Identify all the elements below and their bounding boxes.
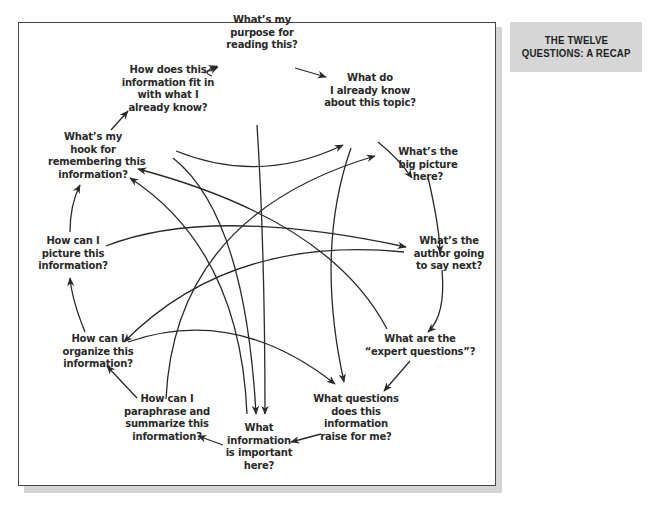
node-line: with what I — [118, 89, 218, 102]
node-line: What are the — [360, 333, 480, 346]
node-line: information — [310, 418, 402, 431]
node-line: is important — [216, 447, 302, 460]
node-line: picture this — [38, 248, 108, 261]
node-paraphrase: How can I paraphrase and summarize this … — [122, 393, 212, 443]
node-line: information? — [122, 431, 212, 444]
node-line: information fit in — [118, 77, 218, 90]
node-line: big picture — [390, 159, 466, 172]
arrow-paraphrase-to-bigpicture — [166, 156, 375, 399]
node-line: reading this? — [222, 39, 302, 52]
node-line: How can I — [58, 333, 138, 346]
arrow-organize-to-picture — [70, 278, 85, 332]
arrow-purpose-to-important — [257, 125, 265, 414]
node-line: information? — [48, 169, 138, 182]
node-line: here? — [390, 171, 466, 184]
node-line: to say next? — [410, 260, 488, 273]
node-purpose: What’s my purpose for reading this? — [222, 14, 302, 52]
node-big-picture: What’s the big picture here? — [390, 146, 466, 184]
node-line: What’s the — [390, 146, 466, 159]
node-line: What — [216, 422, 302, 435]
node-line: purpose for — [222, 27, 302, 40]
node-already-know: What do I already know about this topic? — [315, 72, 425, 110]
node-line: organize this — [58, 346, 138, 359]
node-line: information — [216, 435, 302, 448]
node-questions-raise: What questions does this information rai… — [310, 393, 402, 443]
arrow-already-to-questions — [331, 148, 351, 382]
node-important: What information is important here? — [216, 422, 302, 472]
arrow-organize-to-questions — [128, 330, 335, 384]
node-organize: How can I organize this information? — [58, 333, 138, 371]
node-expert-questions: What are the “expert questions”? — [360, 333, 480, 358]
node-line: remembering this — [48, 156, 138, 169]
node-picture: How can I picture this information? — [38, 235, 108, 273]
node-line: already know? — [118, 102, 218, 115]
node-line: about this topic? — [315, 97, 425, 110]
node-line: hook for — [48, 144, 138, 157]
node-line: What’s my — [222, 14, 302, 27]
node-hook: What’s my hook for remembering this info… — [48, 131, 138, 181]
node-line: “expert questions”? — [360, 346, 480, 359]
node-line: What do — [315, 72, 425, 85]
node-fit-in: How does this information fit in with wh… — [118, 64, 218, 114]
node-author-next: What’s the author going to say next? — [410, 235, 488, 273]
node-line: raise for me? — [310, 431, 402, 444]
arrow-author-to-expert — [428, 270, 443, 332]
node-line: paraphrase and — [122, 406, 212, 419]
node-line: How does this — [118, 64, 218, 77]
arrow-picture-to-hook — [70, 185, 80, 232]
node-line: author going — [410, 248, 488, 261]
node-line: What’s the — [410, 235, 488, 248]
node-line: I already know — [315, 85, 425, 98]
node-line: What questions — [310, 393, 402, 406]
node-line: here? — [216, 460, 302, 473]
node-line: How can I — [38, 235, 108, 248]
node-line: information? — [38, 260, 108, 273]
node-line: summarize this — [122, 418, 212, 431]
node-line: How can I — [122, 393, 212, 406]
node-line: information? — [58, 358, 138, 371]
node-line: What’s my — [48, 131, 138, 144]
arrow-important-to-hook — [130, 178, 247, 414]
arrow-expert-to-questions — [384, 361, 410, 391]
node-line: does this — [310, 406, 402, 419]
arrow-picture-to-author — [106, 226, 406, 247]
